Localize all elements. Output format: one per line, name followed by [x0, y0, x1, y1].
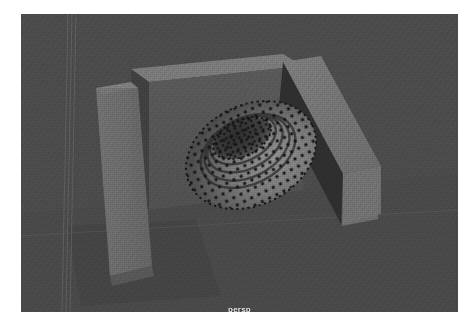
- viewport-camera-label: persp: [21, 305, 458, 312]
- app-root: persp: [0, 0, 473, 327]
- persp-viewport[interactable]: persp: [21, 14, 458, 312]
- scene-geometry: [21, 14, 458, 312]
